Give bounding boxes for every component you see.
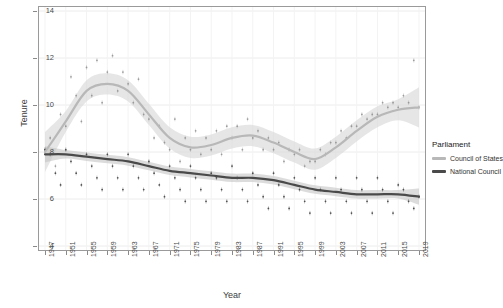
x-tick-label: 1971 bbox=[173, 241, 180, 257]
plot-panel bbox=[38, 6, 426, 251]
y-tick-mark bbox=[33, 58, 37, 59]
legend-label: National Council bbox=[450, 168, 501, 175]
y-axis-title: Tenure bbox=[19, 83, 29, 143]
x-tick-label: 2015 bbox=[401, 241, 408, 257]
x-tick-label: 1963 bbox=[131, 241, 138, 257]
x-tick-label: 1983 bbox=[235, 241, 242, 257]
x-tick-mark bbox=[190, 251, 191, 255]
x-tick-mark bbox=[149, 251, 150, 255]
x-tick-label: 1987 bbox=[256, 241, 263, 257]
x-tick-mark bbox=[211, 251, 212, 255]
y-tick-mark bbox=[33, 246, 37, 247]
x-tick-label: 1995 bbox=[297, 241, 304, 257]
x-tick-label: 2003 bbox=[339, 241, 346, 257]
x-tick-mark bbox=[45, 251, 46, 255]
legend: Parliament Council of StatesNational Cou… bbox=[432, 140, 503, 179]
x-tick-label: 1967 bbox=[152, 241, 159, 257]
x-tick-label: 1959 bbox=[110, 241, 117, 257]
x-tick-mark bbox=[232, 251, 233, 255]
x-tick-mark bbox=[315, 251, 316, 255]
x-tick-mark bbox=[107, 251, 108, 255]
legend-color-swatch bbox=[432, 157, 446, 160]
x-axis-title: Year bbox=[38, 290, 426, 300]
x-tick-mark bbox=[274, 251, 275, 255]
x-tick-label: 1955 bbox=[90, 241, 97, 257]
x-tick-mark bbox=[253, 251, 254, 255]
x-tick-mark bbox=[128, 251, 129, 255]
x-tick-label: 2007 bbox=[360, 241, 367, 257]
x-tick-mark bbox=[377, 251, 378, 255]
legend-items: Council of StatesNational Council bbox=[432, 153, 503, 176]
y-tick-mark bbox=[33, 152, 37, 153]
legend-label: Council of States bbox=[450, 155, 503, 162]
x-tick-label: 1999 bbox=[318, 241, 325, 257]
legend-title: Parliament bbox=[432, 140, 503, 149]
x-tick-mark bbox=[336, 251, 337, 255]
x-tick-label: 1991 bbox=[277, 241, 284, 257]
x-tick-mark bbox=[398, 251, 399, 255]
y-tick-mark bbox=[33, 11, 37, 12]
x-tick-label: 1975 bbox=[193, 241, 200, 257]
x-tick-mark bbox=[170, 251, 171, 255]
y-tick-label: 6 bbox=[28, 194, 54, 203]
plot-area bbox=[39, 7, 425, 250]
x-tick-mark bbox=[87, 251, 88, 255]
x-tick-mark bbox=[419, 251, 420, 255]
x-tick-label: 1979 bbox=[214, 241, 221, 257]
x-tick-label: 1951 bbox=[69, 241, 76, 257]
y-tick-label: 12 bbox=[28, 53, 54, 62]
x-tick-label: 2019 bbox=[422, 241, 429, 257]
legend-key bbox=[432, 166, 446, 176]
x-tick-label: 1947 bbox=[48, 241, 55, 257]
y-tick-label: 8 bbox=[28, 147, 54, 156]
legend-color-swatch bbox=[432, 170, 446, 173]
x-tick-mark bbox=[66, 251, 67, 255]
y-tick-label: 10 bbox=[28, 100, 54, 109]
x-tick-mark bbox=[357, 251, 358, 255]
y-tick-mark bbox=[33, 199, 37, 200]
x-tick-mark bbox=[294, 251, 295, 255]
y-tick-mark bbox=[33, 105, 37, 106]
legend-key bbox=[432, 153, 446, 163]
legend-item[interactable]: National Council bbox=[432, 166, 503, 176]
legend-item[interactable]: Council of States bbox=[432, 153, 503, 163]
x-tick-label: 2011 bbox=[380, 242, 387, 257]
y-tick-label: 14 bbox=[28, 6, 54, 15]
